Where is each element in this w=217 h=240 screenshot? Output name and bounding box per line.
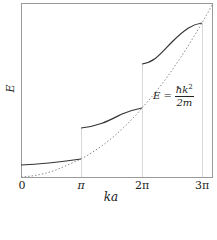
formula-lhs: E = (153, 90, 172, 101)
band-3-curve (142, 23, 202, 64)
x-axis-label: ka (104, 190, 118, 204)
band-2-curve (81, 108, 142, 128)
x-tick-0: 0 (19, 179, 26, 192)
x-tick-2pi: 2π (135, 179, 149, 192)
band-1-curve (21, 159, 81, 165)
x-tick-pi: π (77, 179, 84, 192)
x-tick-3pi: 3π (195, 179, 209, 192)
formula-denominator: 2m (176, 97, 192, 109)
formula-fraction: ħk2 2m (175, 81, 194, 109)
y-axis-label: E (4, 84, 17, 92)
formula-numerator: ħk2 (175, 81, 194, 97)
parabola-formula: E = ħk2 2m (153, 81, 194, 109)
